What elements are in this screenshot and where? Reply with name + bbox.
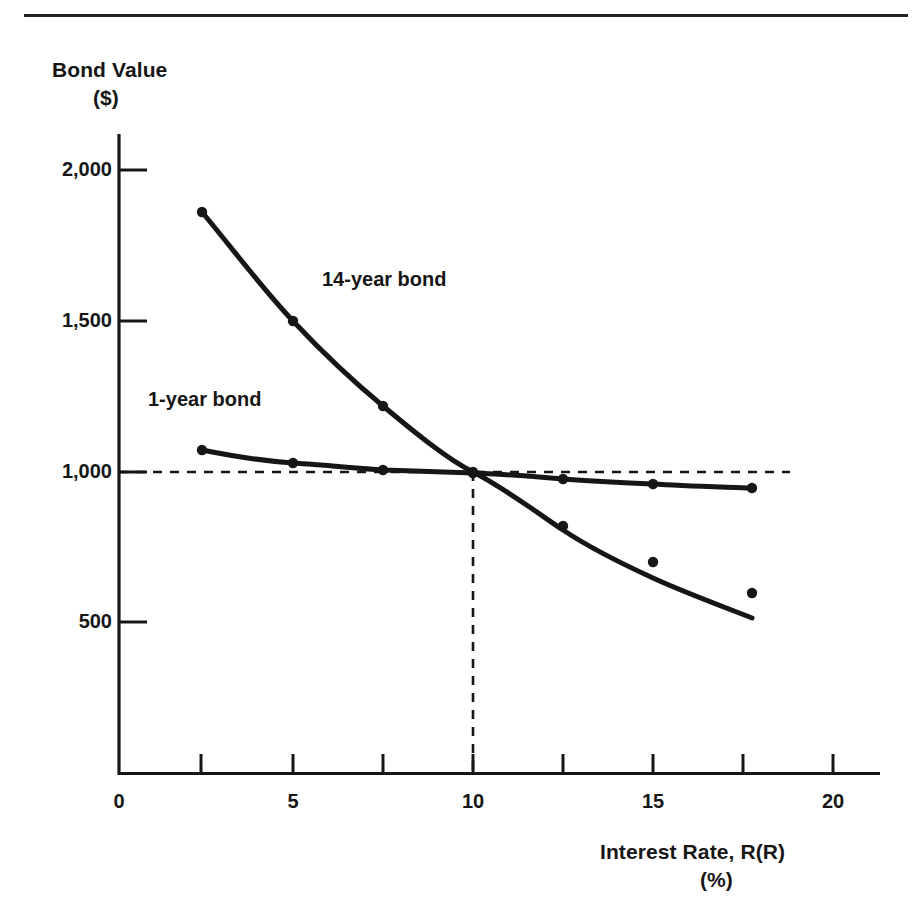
data-point — [378, 401, 388, 411]
data-point — [648, 479, 658, 489]
x-tick-label-15: 15 — [623, 790, 683, 813]
x-axis-title: Interest Rate, R(R) — [600, 840, 785, 864]
x-tick-label-5: 5 — [263, 790, 323, 813]
series-curve-14-year-bond — [202, 212, 752, 618]
x-axis-ticks — [201, 754, 833, 773]
data-point — [197, 207, 207, 217]
x-axis-units: (%) — [700, 868, 733, 892]
series-annotation-1-year-bond: 1-year bond — [148, 388, 261, 411]
y-tick-label-1500: 1,500 — [24, 309, 112, 332]
data-point — [378, 465, 388, 475]
data-point — [558, 474, 568, 484]
series-annotation-14-year-bond: 14-year bond — [322, 268, 446, 291]
data-point — [197, 445, 207, 455]
x-tick-label-0: 0 — [89, 790, 149, 813]
x-tick-label-20: 20 — [803, 790, 863, 813]
data-point — [558, 521, 568, 531]
data-point — [468, 468, 478, 478]
chart-figure: Bond Value ($) Interest Rate, R(R) (%) 2… — [0, 0, 915, 920]
y-tick-label-2000: 2,000 — [24, 158, 112, 181]
x-tick-label-10: 10 — [443, 790, 503, 813]
y-tick-label-1000: 1,000 — [24, 460, 112, 483]
series-markers-14-year-bond — [197, 207, 757, 598]
data-point — [747, 588, 757, 598]
data-point — [648, 557, 658, 567]
y-tick-label-500: 500 — [24, 610, 112, 633]
data-point — [288, 458, 298, 468]
data-point — [747, 483, 757, 493]
data-point — [288, 316, 298, 326]
chart-plot-area — [0, 0, 915, 920]
y-axis-units: ($) — [93, 86, 119, 110]
y-axis-ticks — [119, 170, 147, 622]
y-axis-title: Bond Value — [52, 58, 167, 82]
